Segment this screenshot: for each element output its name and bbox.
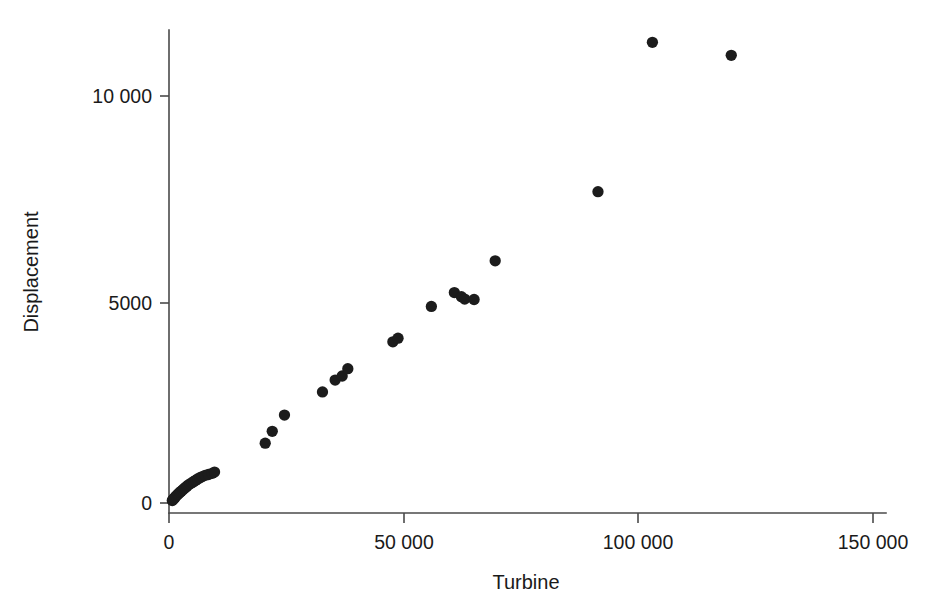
data-point <box>426 301 437 312</box>
x-axis-title: Turbine <box>492 571 559 593</box>
data-point <box>317 386 328 397</box>
y-tick-label-0: 0 <box>141 492 152 514</box>
data-point <box>468 294 479 305</box>
data-point <box>260 438 271 449</box>
x-tick-label-50000: 50 000 <box>374 531 434 553</box>
x-tick-label-0: 0 <box>164 531 175 553</box>
data-point <box>342 363 353 374</box>
x-tick-label-100000: 100 000 <box>603 531 674 553</box>
data-point <box>647 37 658 48</box>
data-point <box>209 466 220 477</box>
data-point <box>592 186 603 197</box>
y-tick-label-5000: 5000 <box>109 292 153 314</box>
data-point <box>490 255 501 266</box>
plot-canvas: 0 5000 10 000 0 50 000 100 000 150 000 T… <box>0 0 944 615</box>
data-point <box>392 333 403 344</box>
data-point <box>267 426 278 437</box>
data-points-group <box>167 37 737 507</box>
y-tick-label-10000: 10 000 <box>92 85 152 107</box>
y-axis-title: Displacement <box>20 211 42 333</box>
scatter-plot-figure: 0 5000 10 000 0 50 000 100 000 150 000 T… <box>0 0 944 615</box>
data-point <box>726 50 737 61</box>
x-tick-label-150000: 150 000 <box>838 531 909 553</box>
data-point <box>279 409 290 420</box>
